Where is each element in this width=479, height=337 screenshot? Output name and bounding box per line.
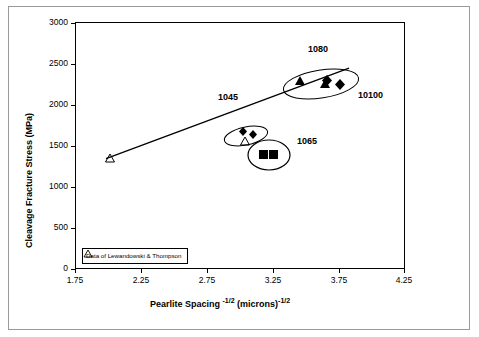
xtick-mark-425	[404, 269, 405, 273]
annotation-1080: 1080	[308, 44, 328, 54]
point-open-triangle-2	[241, 137, 250, 145]
ytick-label-500: 500	[34, 223, 68, 232]
xtick-mark-375	[339, 269, 340, 273]
plot-svg	[76, 23, 404, 268]
xtick-label-175: 1.75	[55, 276, 95, 285]
ytick-label-1500: 1500	[34, 141, 68, 150]
annotation-1065: 1065	[297, 136, 317, 146]
xtick-label-325: 3.25	[253, 276, 293, 285]
y-axis-title: Cleavage Fracture Stress (MPa)	[24, 113, 34, 248]
point-1045-b	[249, 130, 257, 139]
xtick-mark-175	[75, 269, 76, 273]
xtick-mark-275	[207, 269, 208, 273]
xtick-mark-325	[273, 269, 274, 273]
point-1065-a	[259, 150, 268, 159]
legend: Data of Lewandowski & Thompson	[82, 248, 188, 264]
ytick-label-1000: 1000	[34, 182, 68, 191]
xtick-mark-225	[141, 269, 142, 273]
ytick-label-2500: 2500	[34, 59, 68, 68]
ytick-label-2000: 2000	[34, 100, 68, 109]
plot-area	[75, 22, 405, 269]
xtick-label-225: 2.25	[121, 276, 161, 285]
xtick-label-375: 3.75	[319, 276, 359, 285]
point-10100-b	[335, 79, 345, 90]
group-ellipse-1080-10100	[281, 64, 360, 104]
x-axis-title: Pearlite Spacing -1/2 (microns)-1/2	[150, 297, 290, 309]
ytick-label-0: 0	[34, 264, 68, 273]
point-1065-b	[269, 150, 278, 159]
point-1080-a	[295, 76, 305, 85]
chart-root: 0 500 1000 1500 2000 2500 3000 1.75 2.25…	[0, 0, 479, 337]
annotation-10100: 10100	[358, 90, 383, 100]
xtick-label-425: 4.25	[384, 276, 424, 285]
annotation-1045: 1045	[218, 92, 238, 102]
xtick-label-275: 2.75	[187, 276, 227, 285]
legend-item-label: Data of Lewandowski & Thompson	[86, 252, 182, 260]
open-triangle-icon	[83, 249, 93, 258]
ytick-label-3000: 3000	[34, 18, 68, 27]
